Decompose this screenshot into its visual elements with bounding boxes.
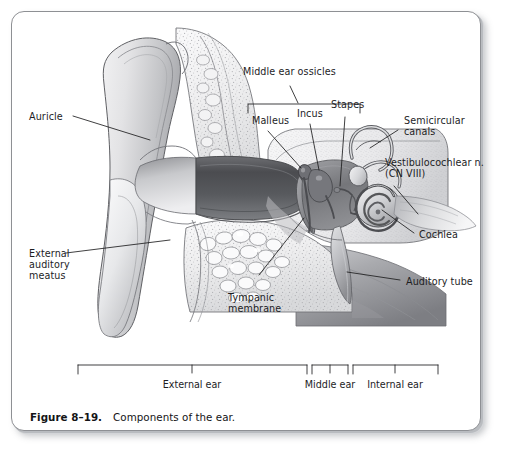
- label-tympanic-membrane-line2: membrane: [228, 303, 281, 314]
- label-malleus: Malleus: [252, 115, 289, 126]
- label-vestibulocochlear-nerve-line1: Vestibulocochlear n.: [385, 157, 484, 168]
- figure-number: Figure 8–19.: [30, 411, 102, 423]
- figure-caption-text: Components of the ear.: [113, 411, 235, 423]
- label-semicircular-canals-line2: canals: [404, 126, 435, 137]
- label-vestibulocochlear-nerve-line2: (CN VIII): [385, 168, 425, 179]
- label-cochlea: Cochlea: [419, 229, 458, 240]
- label-auricle: Auricle: [29, 111, 63, 122]
- section-label-middle-ear: Middle ear: [305, 379, 355, 390]
- label-auditory-tube: Auditory tube: [406, 276, 473, 287]
- label-middle-ear-ossicles: Middle ear ossicles: [243, 66, 336, 77]
- label-external-auditory-meatus-line1: External: [29, 248, 70, 259]
- label-semicircular-canals-line1: Semicircular: [404, 115, 465, 126]
- label-tympanic-membrane-line1: Tympanic: [228, 292, 274, 303]
- section-label-internal-ear: Internal ear: [367, 379, 423, 390]
- section-label-external-ear: External ear: [163, 379, 222, 390]
- label-incus: Incus: [297, 108, 323, 119]
- label-stapes: Stapes: [331, 99, 364, 110]
- figure-caption: Figure 8–19.Components of the ear.: [30, 411, 235, 423]
- label-external-auditory-meatus-line3: meatus: [29, 270, 66, 281]
- label-external-auditory-meatus-line2: auditory: [29, 259, 70, 270]
